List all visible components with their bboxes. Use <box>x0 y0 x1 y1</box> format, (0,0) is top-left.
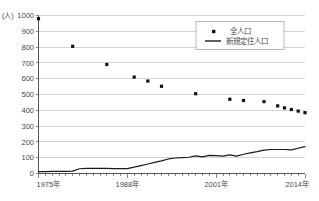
y-tick-label: 800 <box>21 43 34 52</box>
legend-label-total-population: 全人口 <box>230 26 251 36</box>
legend-label-new-residents: 新規定住人口 <box>226 36 268 46</box>
y-tick-label: 700 <box>21 59 34 68</box>
scatter-marker <box>242 99 245 102</box>
scatter-marker <box>37 17 40 20</box>
y-tick-label: 400 <box>21 106 34 115</box>
y-axis-unit-label: (人) <box>2 12 14 20</box>
scatter-marker <box>262 100 265 103</box>
scatter-marker <box>283 106 286 109</box>
x-tick-marks-group <box>39 174 306 178</box>
legend-marker-square <box>212 30 215 33</box>
scatter-marker <box>290 108 293 111</box>
scatter-marker <box>303 111 306 114</box>
y-tick-label: 1000 <box>17 11 34 20</box>
x-tick-label: 2001年 <box>204 179 229 189</box>
x-tick-label: 1988年 <box>115 179 140 189</box>
scatter-marker <box>71 45 74 48</box>
y-tick-label: 500 <box>21 90 34 99</box>
y-tick-label: 100 <box>21 153 34 162</box>
y-tick-label: 300 <box>21 122 34 131</box>
scatter-marker <box>105 63 108 66</box>
scatter-marker <box>276 104 279 107</box>
chart-canvas: 01002003004005006007008009001000 1975年19… <box>0 0 319 201</box>
chart-legend: 全人口 新規定住人口 <box>196 22 284 50</box>
scatter-marker <box>133 76 136 79</box>
y-tick-label: 0 <box>30 169 34 178</box>
scatter-marker <box>297 109 300 112</box>
x-tick-labels-group: 1975年1988年2001年2014年 <box>37 179 310 189</box>
y-tick-label: 600 <box>21 74 34 83</box>
series-line-new-residents <box>39 147 306 172</box>
population-chart: 01002003004005006007008009001000 1975年19… <box>0 0 319 201</box>
x-tick-label: 1975年 <box>37 179 62 189</box>
scatter-marker <box>146 79 149 82</box>
y-tick-labels-group: 01002003004005006007008009001000 <box>17 11 34 178</box>
y-tick-label: 200 <box>21 138 34 147</box>
x-tick-label: 2014年 <box>285 179 310 189</box>
scatter-marker <box>194 92 197 95</box>
scatter-marker <box>228 98 231 101</box>
y-tick-label: 900 <box>21 27 34 36</box>
scatter-marker <box>160 85 163 88</box>
